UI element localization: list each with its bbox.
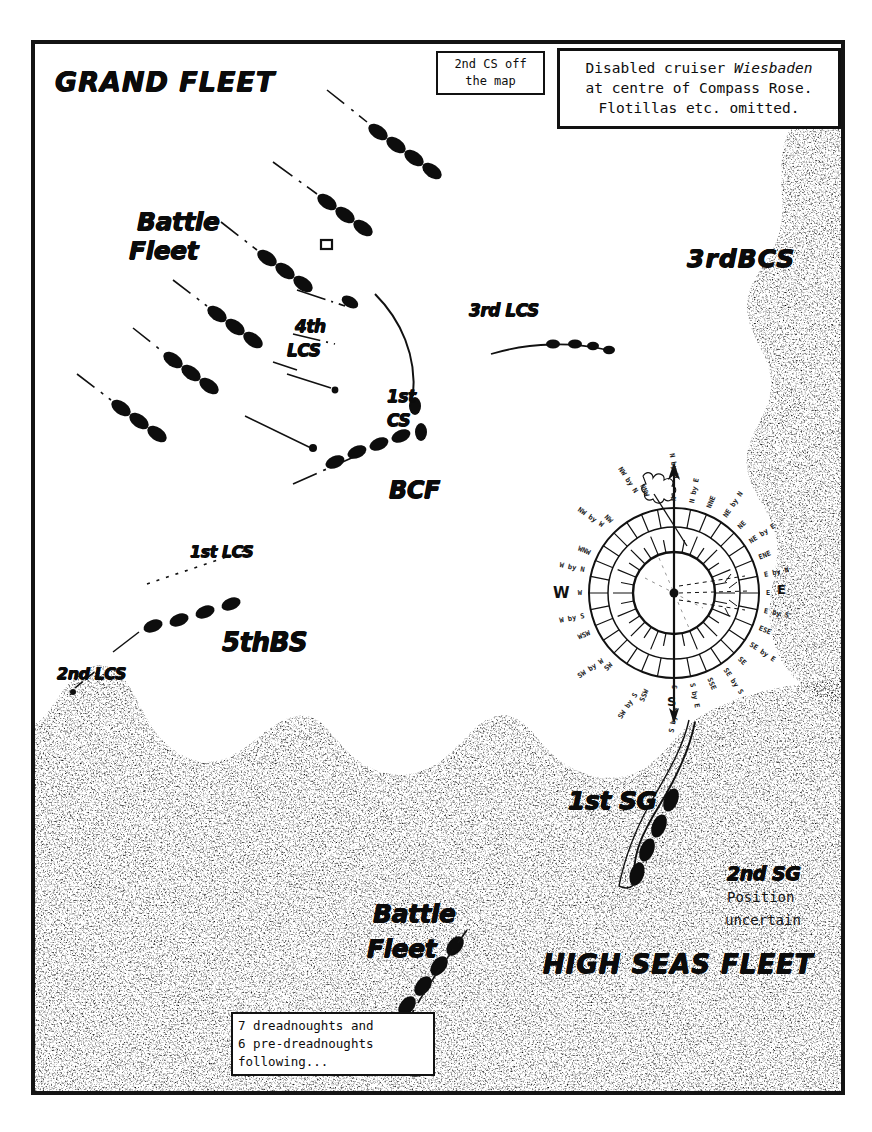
map-frame: W E S NN by ENNENE by NNENE by EENEE by … xyxy=(31,40,845,1095)
high-seas-fleet-label: HIGH SEAS FLEET xyxy=(543,949,814,979)
first-cs-track xyxy=(339,293,427,441)
fourth-lcs-line1: 4th xyxy=(295,316,326,336)
wiesbaden-note-line2: at centre of Compass Rose. xyxy=(566,78,832,98)
division-4 xyxy=(173,280,266,352)
first-cs-line1: 1st xyxy=(387,386,416,406)
wreck-squiggle xyxy=(642,473,687,546)
second-cs-note-line1: 2nd CS off xyxy=(442,56,539,73)
second-sg-note-line1: Position xyxy=(727,889,794,905)
third-lcs-line xyxy=(491,340,615,355)
third-lcs-label: 3rd LCS xyxy=(469,300,539,320)
dreadnoughts-note-box: 7 dreadnoughts and 6 pre-dreadnoughts fo… xyxy=(231,1012,435,1076)
battle-fleet-north-line2: Fleet xyxy=(129,236,198,265)
division-6 xyxy=(77,374,170,446)
first-cs-line2: CS xyxy=(387,410,410,430)
compass-west-label: W xyxy=(553,584,570,602)
battle-fleet-south-line2: Fleet xyxy=(367,934,436,963)
second-cs-note-box: 2nd CS off the map xyxy=(436,51,545,95)
compass-point-0: N xyxy=(670,497,678,501)
first-sg-label: 1st SG xyxy=(568,786,656,815)
fifth-bs-label: 5thBS xyxy=(222,627,307,657)
map-sheet: W E S NN by ENNENE by NNENE by EENEE by … xyxy=(0,0,872,1132)
compass-rose: W E S NN by ENNENE by NNENE by EENEE by … xyxy=(559,458,789,728)
second-cs-note-line2: the map xyxy=(442,73,539,90)
second-sg-label: 2nd SG xyxy=(727,862,800,884)
dreadnoughts-note-line1: 7 dreadnoughts and xyxy=(238,1017,428,1035)
first-lcs-label: 1st LCS xyxy=(190,542,253,561)
dreadnoughts-note-line3: following... xyxy=(238,1053,428,1071)
second-lcs-label: 2nd LCS xyxy=(57,664,126,683)
division-5 xyxy=(133,328,222,398)
map-plate: W E S NN by ENNENE by NNENE by EENEE by … xyxy=(35,44,841,1091)
dreadnoughts-note-line2: 6 pre-dreadnoughts xyxy=(238,1035,428,1053)
wiesbaden-note-line3: Flotillas etc. omitted. xyxy=(566,98,832,118)
third-bcs-label: 3rdBCS xyxy=(687,244,795,273)
fourth-lcs-line2: LCS xyxy=(287,340,320,360)
wiesbaden-ship-name: Wiesbaden xyxy=(734,60,813,76)
bcf-label: BCF xyxy=(389,476,440,504)
division-3 xyxy=(221,222,332,296)
second-sg-note-line2: uncertain xyxy=(725,912,801,928)
compass-point-16: S xyxy=(670,685,678,689)
compass-point-24: W xyxy=(578,589,582,597)
wiesbaden-note-line1: Disabled cruiser Wiesbaden xyxy=(566,58,832,78)
division-1 xyxy=(327,90,445,183)
wiesbaden-note-box: Disabled cruiser Wiesbaden at centre of … xyxy=(557,48,841,129)
battle-fleet-south-line1: Battle xyxy=(373,899,455,928)
compass-point-8: E xyxy=(766,589,770,597)
battle-fleet-north-line1: Battle xyxy=(137,207,219,236)
division-2 xyxy=(273,162,376,240)
grand-fleet-label: GRAND FLEET xyxy=(55,66,275,97)
wiesbaden-note-prefix: Disabled cruiser xyxy=(586,60,734,76)
compass-east-label: E xyxy=(777,582,786,597)
